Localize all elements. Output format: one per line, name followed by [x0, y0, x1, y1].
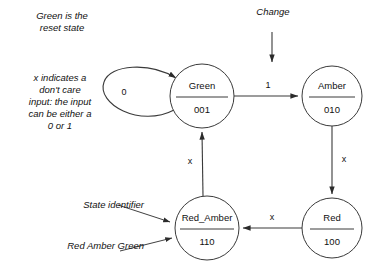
state-machine-svg: 0 1 x x x — [0, 0, 378, 274]
annotation-red-amber-green: Red Amber Green — [14, 240, 144, 252]
annotation-state-identifier: State identifier — [34, 199, 144, 211]
transition-red-redamber: x — [243, 212, 302, 228]
state-name-amber: Amber — [318, 80, 346, 91]
transition-amber-red: x — [332, 126, 347, 194]
state-name-green: Green — [189, 80, 215, 91]
state-code-amber: 010 — [324, 104, 340, 115]
state-code-green: 001 — [194, 104, 210, 115]
transition-label-red-redamber: x — [270, 212, 275, 222]
state-node-red[interactable]: Red 100 — [302, 198, 362, 258]
state-name-red: Red — [323, 212, 340, 223]
transition-label-redamber-green: x — [188, 156, 193, 166]
state-node-amber[interactable]: Amber 010 — [302, 66, 362, 126]
transition-label-amber-red: x — [342, 154, 347, 164]
state-node-green[interactable]: Green 001 — [170, 64, 234, 128]
transition-label-green-self: 0 — [121, 87, 126, 97]
transition-green-amber: 1 — [234, 80, 298, 96]
annotation-dont-care-note: x indicates a don't care input: the inpu… — [2, 72, 118, 132]
state-name-red-amber: Red_Amber — [182, 212, 233, 223]
state-code-red-amber: 110 — [199, 236, 214, 247]
state-code-red: 100 — [324, 236, 340, 247]
state-diagram-canvas: 0 1 x x x — [0, 0, 378, 274]
transition-redamber-green: x — [188, 132, 203, 196]
annotation-reset-note: Green is the reset state — [8, 10, 116, 34]
state-node-red-amber[interactable]: Red_Amber 110 — [175, 196, 239, 260]
transition-label-green-amber: 1 — [265, 80, 270, 90]
annotation-change-input: Change — [238, 6, 308, 18]
